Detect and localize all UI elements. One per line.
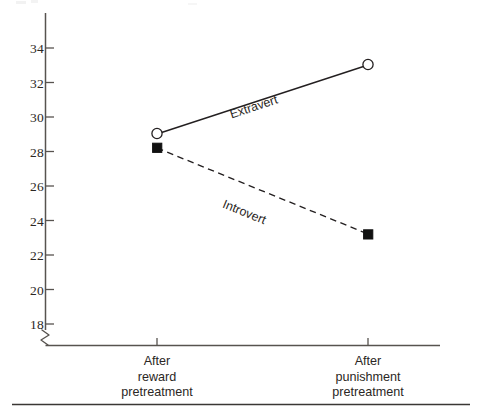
x-category-reward-line1: After bbox=[77, 354, 237, 370]
extravert-data-point-reward bbox=[152, 128, 162, 138]
x-category-punishment-line3: pretreatment bbox=[288, 385, 448, 401]
x-category-punishment-line1: After bbox=[288, 354, 448, 370]
figure-container: 34 32 30 28 26 24 22 20 18 Extravert Int… bbox=[0, 0, 486, 417]
extravert-data-point-punishment bbox=[363, 59, 373, 69]
x-category-reward-line3: pretreatment bbox=[77, 385, 237, 401]
x-category-label-punishment: After punishment pretreatment bbox=[288, 354, 448, 401]
y-axis-ticks bbox=[46, 48, 55, 324]
x-category-label-reward: After reward pretreatment bbox=[77, 354, 237, 401]
x-category-punishment-line2: punishment bbox=[288, 370, 448, 386]
y-tick-label-28: 28 bbox=[18, 145, 44, 161]
y-tick-label-24: 24 bbox=[18, 214, 44, 230]
y-tick-label-34: 34 bbox=[18, 41, 44, 57]
y-tick-label-32: 32 bbox=[18, 76, 44, 92]
y-tick-label-26: 26 bbox=[18, 179, 44, 195]
y-tick-label-30: 30 bbox=[18, 110, 44, 126]
x-axis-ticks bbox=[157, 338, 368, 346]
introvert-data-point-reward bbox=[153, 143, 162, 152]
y-tick-label-18: 18 bbox=[18, 317, 44, 333]
y-tick-label-20: 20 bbox=[18, 283, 44, 299]
x-category-reward-line2: reward bbox=[77, 370, 237, 386]
y-tick-label-22: 22 bbox=[18, 248, 44, 264]
introvert-data-point-punishment bbox=[364, 230, 373, 239]
